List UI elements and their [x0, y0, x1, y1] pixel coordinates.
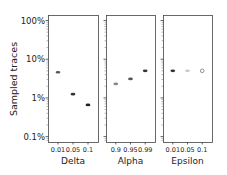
x-axis-label: Epsilon [171, 156, 203, 166]
panel-delta: 0.010.050.1Delta [46, 16, 99, 167]
x-tick-label: 0.01 [51, 146, 65, 154]
y-tick-label: 1% [32, 93, 46, 103]
x-tick-label: 0.99 [138, 146, 152, 154]
chart: Sampled traces 100%10%1%0.1% 0.010.050.1… [0, 0, 227, 175]
y-tick-label: 100% [21, 16, 45, 26]
data-point [185, 70, 190, 73]
data-point [113, 83, 118, 86]
x-tick-label: 0.9 [111, 146, 121, 154]
x-tick-label: 0.95 [123, 146, 137, 154]
x-axis-label: Alpha [118, 156, 144, 166]
data-point [71, 93, 76, 96]
axes-frame [49, 16, 99, 143]
x-tick-label: 0.1 [197, 146, 207, 154]
data-point [143, 70, 148, 73]
x-tick-label: 0.05 [66, 146, 80, 154]
panel-alpha: 0.90.950.99Alpha [104, 16, 156, 167]
data-point [128, 78, 133, 81]
panels: 0.010.050.1Delta0.90.950.99Alpha0.010.05… [46, 16, 213, 167]
y-axis-ticks: 100%10%1%0.1% [21, 16, 45, 142]
panel-epsilon: 0.010.050.1Epsilon [161, 16, 213, 167]
data-point [170, 70, 175, 73]
y-axis-label: Sampled traces [8, 42, 19, 116]
data-point [56, 71, 61, 74]
x-tick-label: 0.1 [83, 146, 93, 154]
data-point [86, 104, 91, 107]
axes-frame [164, 16, 213, 143]
y-tick-label: 0.1% [23, 132, 45, 142]
x-tick-label: 0.01 [166, 146, 180, 154]
x-tick-label: 0.05 [180, 146, 194, 154]
x-axis-label: Delta [61, 156, 85, 166]
y-tick-label: 10% [26, 54, 45, 64]
